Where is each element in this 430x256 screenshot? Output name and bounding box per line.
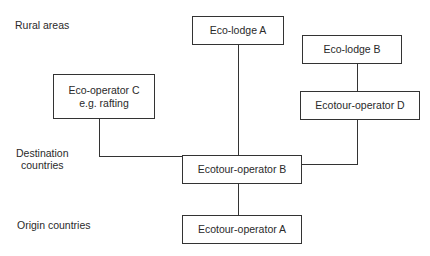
connector-op-d-vertical (357, 120, 358, 165)
connector-op-c-vertical (99, 118, 100, 157)
node-ecotour-operator-d: Ecotour-operator D (300, 91, 420, 120)
node-label: Eco-operator C (68, 84, 139, 97)
node-label: Ecotour-operator D (315, 99, 404, 112)
level-label-destination-line1: Destination (16, 147, 69, 159)
node-ecotour-operator-a: Ecotour-operator A (182, 215, 302, 244)
node-eco-operator-c: Eco-operator C e.g. rafting (53, 74, 155, 119)
level-label-destination-line2: countries (16, 159, 69, 171)
level-label-destination: Destination countries (16, 147, 69, 171)
connector-op-c-to-op-b (99, 156, 182, 157)
connector-lodge-a-to-op-b (238, 44, 239, 155)
node-eco-lodge-a: Eco-lodge A (192, 16, 284, 45)
node-ecotour-operator-b: Ecotour-operator B (182, 155, 302, 184)
node-sublabel: e.g. rafting (79, 97, 129, 110)
level-label-origin: Origin countries (17, 219, 91, 231)
connector-lodge-b-to-op-d (357, 64, 358, 91)
level-label-rural: Rural areas (15, 19, 69, 31)
node-label: Eco-lodge A (210, 24, 267, 37)
node-eco-lodge-b: Eco-lodge B (302, 35, 402, 64)
connector-op-d-to-op-b (301, 164, 358, 165)
node-label: Ecotour-operator B (198, 163, 287, 176)
connector-op-b-to-op-a (238, 183, 239, 215)
node-label: Ecotour-operator A (198, 223, 286, 236)
node-label: Eco-lodge B (323, 43, 380, 56)
